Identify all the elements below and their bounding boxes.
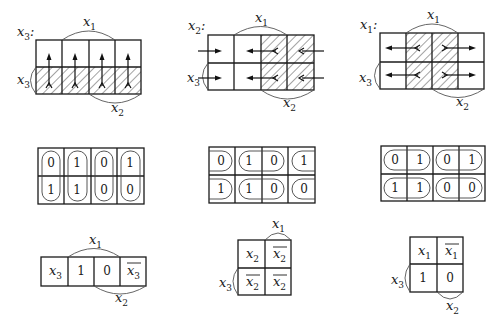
arc-x3 — [203, 63, 209, 90]
svg-text:1: 1 — [391, 181, 399, 195]
panel-x1-map: x1: x1 x3 x2 — [359, 7, 484, 112]
label-x1: x1 — [255, 10, 268, 28]
title-x2: x2: — [188, 18, 205, 36]
svg-text:1: 1 — [126, 156, 134, 170]
svg-text:0: 0 — [270, 154, 278, 168]
svg-text:0: 0 — [103, 264, 111, 278]
label-x3: x3 — [359, 70, 372, 88]
svg-text:x3: x3 — [391, 272, 404, 290]
svg-text:1: 1 — [47, 183, 55, 197]
svg-text:0: 0 — [100, 183, 108, 197]
svg-text:1: 1 — [73, 183, 81, 197]
svg-text:0: 0 — [391, 153, 399, 167]
arc-x1 — [62, 31, 115, 40]
panel-reduced-2x2-x1: x3 x2 x1 x1 1 0 — [391, 237, 463, 316]
svg-text:0: 0 — [446, 271, 454, 285]
svg-text:1: 1 — [468, 153, 476, 167]
svg-text:0: 0 — [270, 182, 278, 196]
svg-text:0: 0 — [443, 153, 451, 167]
grid-2x4 — [380, 33, 484, 89]
arc-x1 — [68, 249, 120, 258]
svg-text:x1: x1 — [418, 243, 431, 261]
svg-text:x2: x2 — [246, 246, 259, 264]
svg-text:1: 1 — [416, 181, 424, 195]
svg-text:1: 1 — [419, 271, 427, 285]
svg-text:1: 1 — [217, 182, 225, 196]
svg-text:1: 1 — [245, 182, 253, 196]
panel-reduced-1x4: x1 x2 x3 1 0 x3 — [41, 232, 146, 308]
svg-text:x3: x3 — [219, 275, 232, 293]
karnaugh-map-figure: x3: x1 x3 x2 x2: — [0, 0, 504, 327]
label-x1: x1 — [83, 14, 96, 32]
panel-x3-map: x3: x1 x3 x2 — [17, 14, 141, 118]
svg-text:x2: x2 — [273, 274, 286, 292]
svg-text:1: 1 — [73, 156, 81, 170]
svg-text:0: 0 — [300, 182, 308, 196]
panel-values-horizontal-groups: 0 1 0 1 1 1 0 0 — [381, 146, 485, 201]
svg-text:0: 0 — [126, 183, 134, 197]
svg-text:x2: x2 — [446, 298, 459, 316]
label-x2: x2 — [283, 95, 296, 113]
arc-x1 — [406, 24, 458, 33]
svg-text:x1: x1 — [445, 243, 458, 261]
svg-text:x3: x3 — [127, 263, 140, 281]
svg-text:x3: x3 — [49, 263, 62, 281]
arc-x3 — [405, 264, 410, 292]
svg-text:x1: x1 — [89, 232, 102, 250]
label-x1: x1 — [427, 7, 440, 25]
arc-x3 — [233, 268, 238, 295]
label-x3: x3 — [17, 72, 30, 90]
title-x1: x1: — [360, 17, 377, 35]
arc-x1 — [234, 27, 287, 36]
label-x3: x3 — [187, 70, 200, 88]
svg-text:1: 1 — [77, 264, 85, 278]
svg-text:0: 0 — [217, 154, 225, 168]
panel-x2-map: x2: x1 x3 x2 — [187, 10, 324, 113]
title-x3: x3: — [17, 24, 34, 42]
svg-text:0: 0 — [468, 181, 476, 195]
svg-text:1: 1 — [416, 153, 424, 167]
svg-text:1: 1 — [245, 154, 253, 168]
arc-x3 — [375, 62, 381, 89]
panel-reduced-2x2-x2: x1 x3 x2 x2 x2 x2 — [219, 216, 291, 295]
svg-text:x2: x2 — [115, 290, 128, 308]
svg-text:x2: x2 — [246, 274, 259, 292]
arc-x1 — [265, 233, 291, 240]
svg-text:x1: x1 — [272, 216, 285, 234]
svg-text:0: 0 — [100, 156, 108, 170]
svg-text:0: 0 — [443, 181, 451, 195]
svg-text:1: 1 — [300, 154, 308, 168]
svg-text:0: 0 — [47, 156, 55, 170]
arc-x3 — [31, 67, 37, 94]
panel-values-wrap-groups: 0 1 0 1 1 1 0 0 — [209, 147, 315, 203]
panel-values-vertical-groups: 0 1 0 1 1 1 0 0 — [38, 148, 144, 204]
svg-text:x2: x2 — [273, 246, 286, 264]
